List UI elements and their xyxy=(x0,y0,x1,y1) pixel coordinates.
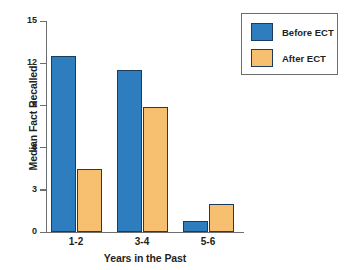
legend-swatch-before-ect xyxy=(251,23,273,41)
legend-item-after-ect: After ECT xyxy=(251,48,326,68)
x-category-label: 3-4 xyxy=(112,236,172,247)
y-tick-label: 0 xyxy=(16,227,37,236)
bar-chart-figure: Median Fact Recalled 03691215 1-23-45-6 … xyxy=(0,0,346,270)
bar-5-6-after-ect xyxy=(209,204,234,232)
bar-5-6-before-ect xyxy=(183,221,208,232)
bar-1-2-before-ect xyxy=(51,56,76,232)
y-tick-label: 15 xyxy=(16,16,37,25)
legend-label-before-ect: Before ECT xyxy=(282,27,334,38)
bar-1-2-after-ect xyxy=(77,169,102,232)
bar-3-4-after-ect xyxy=(143,107,168,232)
y-tick-label: 3 xyxy=(16,185,37,194)
x-axis-title: Years in the Past xyxy=(46,252,244,264)
y-tick-label: 12 xyxy=(16,58,37,67)
bars-layer xyxy=(46,21,244,232)
bar-3-4-before-ect xyxy=(117,70,142,232)
x-category-label: 1-2 xyxy=(46,236,106,247)
x-category-label: 5-6 xyxy=(178,236,238,247)
legend: Before ECT After ECT xyxy=(241,13,338,75)
legend-item-before-ect: Before ECT xyxy=(251,22,334,42)
y-tick-label: 9 xyxy=(16,100,37,109)
legend-swatch-after-ect xyxy=(251,49,273,67)
legend-label-after-ect: After ECT xyxy=(282,53,326,64)
y-tick-label: 6 xyxy=(16,143,37,152)
